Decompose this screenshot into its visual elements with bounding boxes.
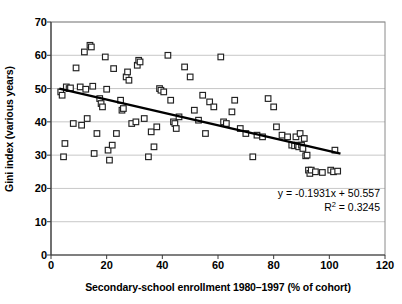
data-point-marker (151, 144, 157, 150)
data-point-marker (102, 54, 108, 60)
data-point-marker (100, 104, 106, 110)
data-point-marker (141, 116, 147, 122)
data-point-marker (313, 169, 319, 175)
data-point-marker (265, 96, 271, 102)
data-point-marker (109, 142, 115, 148)
data-point-marker (192, 107, 198, 113)
data-point-marker (301, 136, 307, 142)
x-tick-label: 20 (101, 259, 113, 271)
data-point-marker (320, 170, 326, 176)
data-point-marker (104, 86, 110, 92)
data-point-marker (304, 152, 310, 158)
data-point-marker (62, 141, 68, 147)
data-point-marker (125, 69, 131, 75)
x-tick-label: 0 (48, 259, 54, 271)
data-point-marker (84, 116, 90, 122)
data-point-marker (229, 109, 235, 115)
data-point-marker (107, 157, 113, 163)
data-point-marker (111, 66, 117, 72)
x-tick-label: 80 (268, 259, 280, 271)
data-point-marker (250, 154, 256, 160)
data-point-marker (285, 134, 291, 140)
data-point-marker (279, 132, 285, 138)
r-squared-number: = 0.3245 (336, 201, 380, 213)
data-point-marker (73, 65, 79, 71)
data-point-marker (82, 49, 88, 55)
data-point-marker (121, 106, 127, 112)
data-point-marker (61, 154, 67, 160)
data-point-marker (218, 54, 224, 60)
data-point-marker (187, 74, 193, 80)
data-point-marker (59, 92, 65, 98)
data-point-marker (137, 59, 143, 65)
data-point-marker (70, 121, 76, 127)
regression-annotation: y = -0.1931x + 50.557 R2 = 0.3245 (215, 186, 380, 214)
r-squared-label: R (324, 201, 332, 213)
data-point-marker (154, 124, 160, 130)
regression-equation: y = -0.1931x + 50.557 (215, 186, 380, 200)
data-point-marker (165, 52, 171, 58)
data-point-marker (182, 64, 188, 70)
data-point-marker (133, 119, 139, 125)
data-point-marker (161, 89, 167, 95)
data-point-marker (274, 124, 280, 130)
data-point-marker (232, 97, 238, 103)
x-tick-label: 100 (320, 259, 338, 271)
x-tick-label: 120 (376, 259, 394, 271)
x-axis-tick-labels: 020406080100120 (0, 259, 402, 277)
data-point-marker (83, 86, 89, 92)
data-point-marker (335, 168, 341, 174)
x-tick-label: 40 (156, 259, 168, 271)
x-tick-label: 60 (212, 259, 224, 271)
r-squared-value: R2 = 0.3245 (215, 200, 380, 214)
data-point-marker (168, 97, 174, 103)
data-point-marker (224, 121, 230, 127)
x-axis-title: Secondary-school enrollment 1980–1997 (%… (51, 281, 385, 293)
data-point-marker (114, 131, 120, 137)
data-point-marker (211, 104, 217, 110)
data-point-marker (91, 151, 97, 157)
scatter-chart-figure: Gini index (various years) 0102030405060… (0, 0, 402, 304)
data-point-marker (271, 104, 277, 110)
data-point-marker (148, 129, 154, 135)
data-point-marker (203, 131, 209, 137)
data-point-marker (146, 154, 152, 160)
data-points (58, 43, 341, 177)
data-point-marker (200, 92, 206, 98)
data-point-marker (77, 84, 83, 90)
data-point-marker (90, 83, 96, 89)
data-point-marker (94, 131, 100, 137)
data-point-marker (89, 44, 95, 50)
data-point-marker (79, 122, 85, 128)
data-point-marker (126, 77, 132, 83)
data-point-marker (173, 126, 179, 132)
